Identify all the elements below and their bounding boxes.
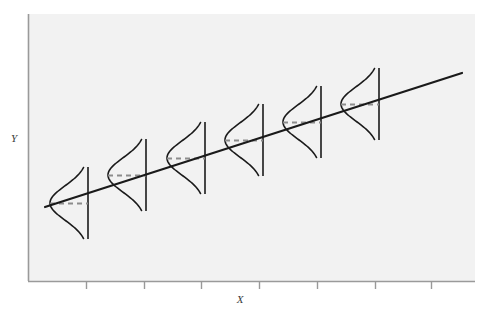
x-axis-label: X bbox=[236, 293, 245, 305]
plot-canvas: Y X bbox=[0, 0, 490, 323]
plot-panel-background bbox=[28, 14, 475, 281]
regression-distribution-figure: Y X bbox=[0, 0, 490, 323]
